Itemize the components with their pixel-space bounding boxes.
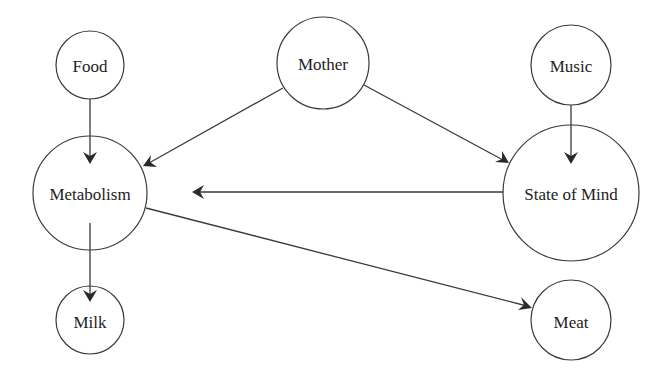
label-music: Music — [550, 58, 593, 75]
label-food: Food — [73, 58, 108, 75]
edge-mother-to-metabolism — [149, 88, 283, 163]
label-milk: Milk — [73, 314, 106, 331]
arrowhead-icon — [143, 155, 157, 167]
edge-metabolism-to-meat — [146, 208, 527, 306]
label-state-of-mind: State of Mind — [524, 186, 618, 203]
arrowhead-icon — [518, 297, 532, 310]
label-mother: Mother — [298, 56, 348, 73]
label-meat: Meat — [554, 314, 589, 331]
label-metabolism: Metabolism — [49, 186, 130, 203]
edge-mother-to-state-of-mind — [364, 85, 503, 160]
